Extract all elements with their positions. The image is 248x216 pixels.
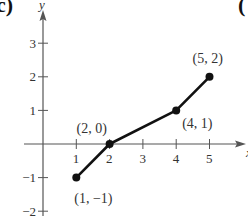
point-label: (1, −1) bbox=[74, 191, 113, 207]
point-label: (5, 2) bbox=[193, 51, 224, 67]
x-tick-label: 5 bbox=[206, 151, 213, 166]
x-tick-label: 3 bbox=[139, 151, 146, 166]
point-label: (2, 0) bbox=[77, 121, 108, 137]
point-label: (4, 1) bbox=[182, 116, 213, 132]
y-axis-label: y bbox=[37, 0, 45, 12]
axes: xy12345−2−1123 bbox=[22, 0, 248, 216]
y-tick-label: −2 bbox=[22, 204, 36, 216]
data-point bbox=[72, 174, 80, 182]
y-tick-label: −1 bbox=[22, 170, 36, 185]
line-chart: xy12345−2−1123 (1, −1)(2, 0)(4, 1)(5, 2) bbox=[0, 0, 248, 216]
x-tick-label: 2 bbox=[106, 151, 113, 166]
x-tick-label: 4 bbox=[173, 151, 180, 166]
x-axis-label: x bbox=[245, 145, 248, 160]
data-point bbox=[172, 106, 180, 114]
point-labels: (1, −1)(2, 0)(4, 1)(5, 2) bbox=[74, 51, 223, 207]
y-tick-label: 3 bbox=[30, 36, 37, 51]
y-tick-label: 1 bbox=[30, 103, 37, 118]
data-point bbox=[106, 140, 114, 148]
x-tick-label: 1 bbox=[73, 151, 80, 166]
data-point bbox=[206, 73, 214, 81]
y-tick-label: 2 bbox=[30, 69, 37, 84]
